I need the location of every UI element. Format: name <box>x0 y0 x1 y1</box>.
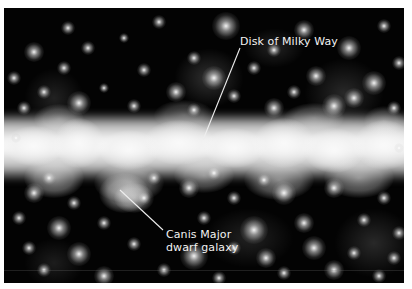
canis-label-line-1: Canis Major <box>166 228 238 241</box>
canis-major-leader-line <box>120 190 163 230</box>
disk-leader-line <box>203 48 240 140</box>
disk-of-milky-way-label: Disk of Milky Way <box>240 35 338 48</box>
milky-way-infrared-image: Disk of Milky Way Canis Major dwarf gala… <box>4 8 404 283</box>
canis-major-dwarf-galaxy-label: Canis Major dwarf galaxy <box>166 228 238 254</box>
disk-label-text: Disk of Milky Way <box>240 35 338 48</box>
canis-label-line-2: dwarf galaxy <box>166 241 238 254</box>
